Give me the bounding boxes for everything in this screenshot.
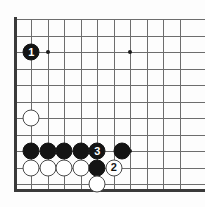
grid-line-vertical-7 [130, 19, 131, 190]
grid-line-horizontal-7 [15, 135, 206, 136]
star-point-upper-right [128, 50, 132, 54]
grid-line-horizontal-1 [15, 36, 206, 37]
white-stone-l [89, 176, 106, 193]
grid-line-horizontal-4 [15, 85, 206, 86]
black-stone-b [23, 143, 40, 160]
grid-line-horizontal-6 [15, 118, 206, 119]
grid-line-vertical-10 [180, 19, 181, 190]
grid-line-horizontal-10 [15, 184, 206, 185]
white-stone-a [23, 110, 40, 127]
black-stone-c [39, 143, 56, 160]
grid-line-vertical-9 [163, 19, 164, 190]
grid-line-horizontal-3 [15, 69, 206, 70]
black-stone-move-3: 3 [89, 143, 106, 160]
board-bottom-edge [14, 189, 206, 192]
black-stone-d [56, 143, 73, 160]
black-stone-e [72, 143, 89, 160]
grid-line-horizontal-0 [15, 19, 206, 20]
stone-move-number: 1 [28, 46, 34, 57]
white-stone-h [39, 159, 56, 176]
stone-move-number: 3 [94, 145, 100, 156]
black-stone-move-1: 1 [23, 44, 40, 61]
black-stone-f [114, 143, 131, 160]
black-stone-k [89, 159, 106, 176]
white-stone-move-2: 2 [105, 159, 122, 176]
star-point-upper-left [46, 50, 50, 54]
grid-line-horizontal-5 [15, 102, 206, 103]
go-board-diagram: 132 [0, 0, 205, 207]
grid-line-vertical-8 [147, 19, 148, 190]
white-stone-i [56, 159, 73, 176]
grid-line-horizontal-2 [15, 52, 206, 53]
white-stone-j [72, 159, 89, 176]
white-stone-g [23, 159, 40, 176]
stone-move-number: 2 [111, 162, 117, 173]
board-left-edge [14, 17, 17, 192]
